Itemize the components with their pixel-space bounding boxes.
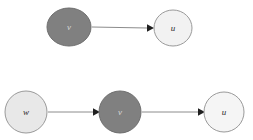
- arrowhead-v-to-u-top: [147, 24, 154, 32]
- node-label-v-top: v: [67, 22, 71, 32]
- node-v-top[interactable]: v: [47, 8, 91, 46]
- top-row-group: v u: [47, 8, 192, 46]
- edge-line-v-to-u-top: [92, 27, 147, 28]
- node-label-w-bottom: w: [23, 107, 29, 117]
- edge-v-to-u-top: [92, 24, 154, 32]
- bottom-row-group: w v u: [5, 91, 244, 133]
- node-label-v-bottom: v: [118, 107, 122, 117]
- diagram-canvas: v u w: [0, 0, 253, 140]
- node-u-top[interactable]: u: [154, 10, 192, 46]
- node-u-bottom[interactable]: u: [204, 92, 244, 132]
- graph-svg: v u w: [0, 0, 253, 140]
- node-label-u-top: u: [171, 23, 176, 33]
- edge-w-to-v-bottom: [48, 108, 100, 116]
- node-v-bottom[interactable]: v: [99, 91, 141, 133]
- node-label-u-bottom: u: [222, 107, 227, 117]
- node-w-bottom[interactable]: w: [5, 91, 47, 133]
- edge-v-to-u-bottom: [142, 108, 205, 116]
